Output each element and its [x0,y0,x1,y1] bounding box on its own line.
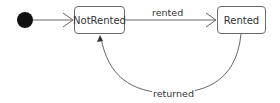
state-label: Rented [224,15,259,26]
transition-returned [101,34,241,93]
state-rented[interactable]: Rented [217,6,266,34]
state-not-rented[interactable]: NotRented [74,6,125,34]
transition-label-rented: rented [151,7,184,18]
state-label: NotRented [73,15,126,26]
transition-label-returned: returned [152,88,195,99]
arrowhead-icon [97,35,103,42]
initial-state [17,12,33,28]
transition-initial [33,13,73,27]
